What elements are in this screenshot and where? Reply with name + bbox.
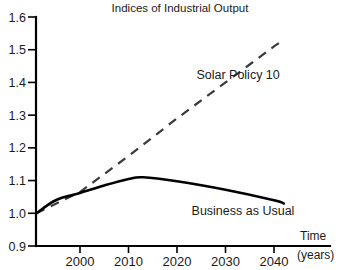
x-tick-label: 2020 — [163, 254, 192, 269]
y-tick-label: 0.9 — [9, 240, 26, 254]
y-axis-ticks: 0.91.01.11.21.31.41.51.6 — [9, 11, 36, 254]
x-axis-title: Time — [300, 229, 327, 243]
y-tick-label: 1.0 — [9, 207, 26, 221]
x-tick-label: 2040 — [260, 254, 289, 269]
y-tick-label: 1.5 — [9, 43, 26, 57]
x-axis-ticks: 20002010202020302040 — [66, 246, 289, 269]
series-line-solar-policy-10 — [36, 40, 283, 213]
y-tick-label: 1.6 — [9, 11, 26, 25]
chart-title: Indices of Industrial Output — [112, 2, 250, 14]
x-tick-label: 2030 — [211, 254, 240, 269]
x-tick-label: 2010 — [114, 254, 143, 269]
series-label-business-as-usual: Business as Usual — [192, 204, 295, 218]
industrial-output-line-chart: Indices of Industrial Output 0.91.01.11.… — [0, 0, 357, 270]
series-label-solar-policy-10: Solar Policy 10 — [196, 68, 279, 82]
y-tick-label: 1.2 — [9, 141, 26, 155]
y-tick-label: 1.4 — [9, 76, 26, 90]
y-tick-label: 1.3 — [9, 109, 26, 123]
y-tick-label: 1.1 — [9, 174, 26, 188]
chart-container: Indices of Industrial Output 0.91.01.11.… — [0, 0, 357, 270]
x-tick-label: 2000 — [66, 254, 95, 269]
x-axis-units-label: (years) — [297, 248, 334, 262]
